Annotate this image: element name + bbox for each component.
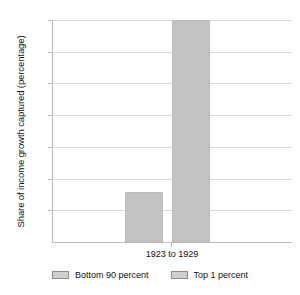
legend-item-bottom-90-percent: Bottom 90 percent	[52, 270, 149, 280]
bar-bottom-90-percent	[125, 192, 163, 242]
legend-label: Bottom 90 percent	[75, 270, 149, 280]
y-tick-50	[48, 83, 52, 84]
y-tick-70	[48, 20, 52, 21]
y-tick-20	[48, 179, 52, 180]
bar-chart: Share of income growth captured (percent…	[0, 0, 300, 295]
y-tick-30	[48, 147, 52, 148]
legend-swatch-icon	[52, 271, 69, 279]
legend-swatch-icon	[171, 271, 188, 279]
plot-area: 70% 60 50 40 30 20 10	[52, 20, 292, 243]
bar-top-1-percent	[172, 20, 210, 242]
y-tick-10	[48, 210, 52, 211]
chart-legend: Bottom 90 percent Top 1 percent	[0, 270, 300, 280]
y-tick-60	[48, 52, 52, 53]
legend-label: Top 1 percent	[194, 270, 249, 280]
y-tick-40	[48, 115, 52, 116]
y-axis-title: Share of income growth captured (percent…	[15, 7, 26, 257]
x-axis-category-label: 1923 to 1929	[52, 249, 292, 259]
x-axis-line	[52, 242, 292, 243]
x-axis-tick	[171, 243, 172, 247]
legend-item-top-1-percent: Top 1 percent	[171, 270, 249, 280]
